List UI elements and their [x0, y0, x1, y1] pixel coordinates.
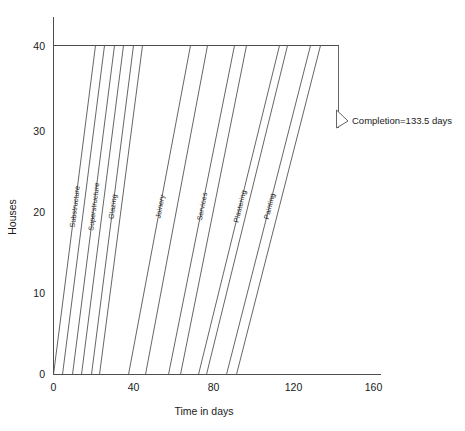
x-tick-labels: 0 40 80 120 160: [51, 381, 383, 393]
activity-label-glazing: Glazing: [107, 194, 119, 220]
activity-label-substructure: Substructure: [68, 185, 82, 228]
y-tick-label: 40: [33, 40, 45, 52]
y-tick-label: 20: [33, 206, 45, 218]
completion-triangle-icon: [337, 110, 349, 128]
x-tick-label: 160: [365, 381, 383, 393]
chart-canvas: 40 30 20 10 0 0 40 80 120 160 Time in da…: [0, 0, 465, 431]
x-axis-title: Time in days: [174, 405, 233, 417]
x-tick-label: 40: [128, 381, 140, 393]
activity-label-joinery: Joinery: [153, 194, 166, 219]
activity-label-superstructure: Superstructure: [86, 182, 101, 231]
activity-labels-layer: SubstructureSuperstructureGlazingJoinery…: [68, 182, 277, 231]
balance-line-finish: [237, 46, 321, 375]
activity-label-services: Services: [195, 191, 209, 221]
activity-label-painting: Painting: [262, 192, 277, 220]
y-tick-label: 0: [39, 368, 45, 380]
x-tick-label: 80: [208, 381, 220, 393]
axis-group: [54, 17, 382, 375]
x-tick-label: 0: [51, 381, 57, 393]
balance-line-finish: [207, 46, 288, 375]
completion-marker-group: Completion=133.5 days: [337, 46, 453, 129]
line-of-balance-chart: 40 30 20 10 0 0 40 80 120 160 Time in da…: [0, 0, 465, 431]
balance-line-finish: [100, 46, 143, 375]
y-tick-label: 10: [33, 287, 45, 299]
y-axis-title: Houses: [6, 199, 18, 235]
x-tick-label: 120: [285, 381, 303, 393]
y-tick-labels: 40 30 20 10 0: [33, 40, 45, 381]
activity-label-plastering: Plastering: [231, 189, 248, 223]
completion-label: Completion=133.5 days: [352, 115, 452, 126]
y-tick-label: 30: [33, 125, 45, 137]
